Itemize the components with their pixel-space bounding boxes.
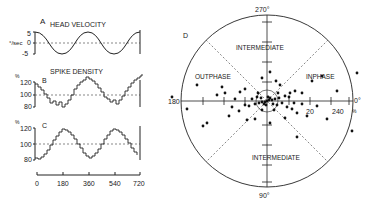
xtick-180: 180 — [57, 180, 69, 187]
radial-unit: % — [352, 108, 357, 114]
panel-a-ytick-neg5: -5 — [22, 50, 28, 57]
panel-c-ytick-100: 100 — [20, 141, 32, 148]
panel-b-ytick-120: 120 — [20, 79, 32, 86]
angle-label-180: 180 — [168, 98, 180, 105]
panel-c: C % 120 100 80 — [15, 119, 140, 163]
sector-label-bottom: INTERMEDIATE — [252, 154, 301, 161]
figure: A HEAD VELOCITY °/sec 5 0 -5 SPIKE DENSI… — [0, 0, 366, 206]
angle-label-90: 90° — [259, 192, 270, 199]
panel-c-letter: C — [42, 122, 47, 129]
sector-label-left: OUTPHASE — [195, 73, 231, 80]
radial-label-20: 20 — [306, 108, 314, 115]
sector-label-top: INTERMEDIATE — [236, 44, 285, 51]
panel-a: A HEAD VELOCITY °/sec 5 0 -5 — [9, 17, 140, 57]
panel-d-polar: D 270° 90° 180 0° 20 240 % INTERMEDIATE … — [168, 6, 361, 199]
angle-label-270: 270° — [255, 6, 270, 13]
xtick-720: 720 — [133, 180, 145, 187]
panel-a-ylabel: °/sec — [9, 40, 22, 46]
panel-a-letter: A — [40, 17, 46, 26]
panel-b: SPIKE DENSITY B % 120 100 80 — [15, 68, 142, 110]
xtick-0: 0 — [35, 180, 39, 187]
radial-label-240: 240 — [332, 108, 344, 115]
panel-b-ytick-100: 100 — [20, 91, 32, 98]
panel-b-letter: B — [42, 77, 47, 84]
panel-a-title: HEAD VELOCITY — [50, 21, 106, 28]
panel-a-ytick-0: 0 — [27, 39, 31, 46]
spike-density-c-histogram — [35, 129, 137, 159]
angle-label-0: 0° — [354, 97, 361, 104]
sector-label-right: INPHASE — [306, 73, 335, 80]
panel-b-title: SPIKE DENSITY — [50, 68, 103, 75]
panel-a-ytick-5: 5 — [27, 30, 31, 37]
phase-xaxis: 0 180 360 540 720 — [35, 172, 145, 187]
polar-scatter-points — [171, 71, 359, 139]
xtick-360: 360 — [83, 180, 95, 187]
panel-b-ytick-80: 80 — [24, 103, 32, 110]
xtick-540: 540 — [109, 180, 121, 187]
panel-d-letter: D — [183, 32, 188, 39]
panel-c-ytick-80: 80 — [24, 156, 32, 163]
panel-c-ytick-120: 120 — [20, 125, 32, 132]
spike-density-b-histogram — [35, 74, 142, 107]
